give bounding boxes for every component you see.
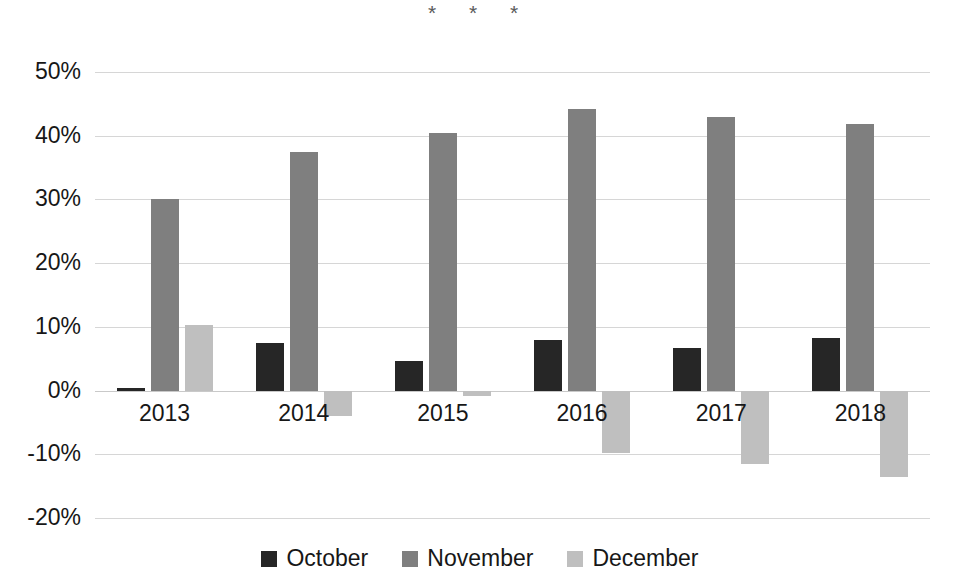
- legend-swatch-icon: [567, 551, 583, 567]
- x-axis-tick-label-2013: 2013: [105, 400, 225, 426]
- y-axis-tick-label: -20%: [27, 506, 81, 529]
- x-axis-tick-label-2018: 2018: [800, 400, 920, 426]
- y-axis-tick-label: 40%: [35, 124, 81, 147]
- x-axis-tick-label-2014: 2014: [244, 400, 364, 426]
- legend-item-october[interactable]: October: [261, 546, 368, 571]
- legend-swatch-icon: [261, 551, 277, 567]
- legend-label: October: [286, 546, 368, 571]
- legend-label: November: [427, 546, 533, 571]
- legend-label: December: [592, 546, 698, 571]
- x-axis-tick-label-2015: 2015: [383, 400, 503, 426]
- x-axis: 201320142015201620172018: [95, 0, 930, 585]
- y-axis-tick-label: 10%: [35, 315, 81, 338]
- legend-item-november[interactable]: November: [402, 546, 533, 571]
- y-axis-tick-label: -10%: [27, 442, 81, 465]
- bar-chart: *** 50%40%30%20%10%0%-10%-20% 2013201420…: [0, 0, 960, 585]
- y-axis-tick-label: 30%: [35, 187, 81, 210]
- chart-legend: OctoberNovemberDecember: [0, 546, 960, 571]
- legend-item-december[interactable]: December: [567, 546, 698, 571]
- y-axis-tick-label: 20%: [35, 251, 81, 274]
- x-axis-tick-label-2017: 2017: [661, 400, 781, 426]
- y-axis-tick-label: 50%: [35, 60, 81, 83]
- x-axis-tick-label-2016: 2016: [522, 400, 642, 426]
- y-axis: 50%40%30%20%10%0%-10%-20%: [0, 0, 95, 585]
- y-axis-tick-label: 0%: [48, 379, 81, 402]
- legend-swatch-icon: [402, 551, 418, 567]
